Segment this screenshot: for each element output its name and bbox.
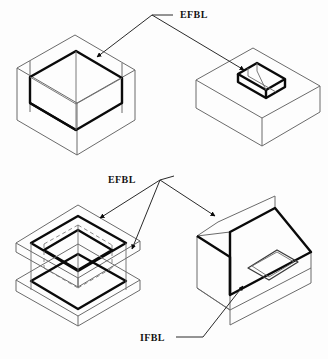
label-efbl-top: EFBL <box>180 9 208 20</box>
engineering-diagram: EFBL <box>0 0 328 359</box>
canvas-background <box>0 0 328 359</box>
diagram-page: EFBL <box>0 0 328 359</box>
label-ifbl-bottom: IFBL <box>140 332 165 343</box>
label-efbl-middle: EFBL <box>108 174 136 185</box>
